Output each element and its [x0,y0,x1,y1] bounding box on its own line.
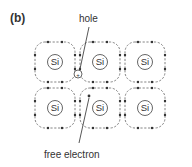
si-atom-label: Si [51,56,59,67]
si-atom-label: Si [96,56,104,67]
valence-electron [92,41,94,43]
valence-electron [137,127,139,129]
valence-electron [164,100,166,102]
si-atom-label: Si [141,102,149,113]
valence-electron [61,41,63,43]
valence-electron [151,41,153,43]
hole-symbol: + [76,72,80,78]
valence-electron [74,114,76,116]
valence-electron [151,127,153,129]
valence-electron [74,100,76,102]
valence-electron [164,54,166,56]
valence-electron [106,41,108,43]
valence-electron [47,87,49,89]
valence-electron [151,87,153,89]
silicon-lattice-diagram: (b) SiSiSiSiSiSi + hole free electron [0,0,192,167]
valence-electron [61,127,63,129]
valence-electron [34,54,36,56]
valence-electron [164,114,166,116]
valence-electron [47,81,49,83]
panel-label: (b) [10,11,25,25]
valence-electron [124,100,126,102]
valence-electron [79,54,81,56]
valence-electron [106,87,108,89]
valence-electron [79,114,81,116]
valence-electron [79,100,81,102]
hole-label: hole [79,13,98,24]
lattice: SiSiSiSiSiSi [34,41,166,129]
valence-electron [106,81,108,83]
valence-electron [119,54,121,56]
valence-electron [137,87,139,89]
valence-electron [151,81,153,83]
valence-electron [61,87,63,89]
valence-electron [34,68,36,70]
si-atom-label: Si [96,102,104,113]
valence-electron [119,100,121,102]
hole-leader-line [80,27,89,69]
free-electron-dot [88,95,91,98]
valence-electron [34,114,36,116]
valence-electron [34,100,36,102]
free-electron-label: free electron [44,149,100,160]
valence-electron [61,81,63,83]
valence-electron [74,68,76,70]
valence-electron [137,81,139,83]
valence-electron [137,41,139,43]
valence-electron [92,87,94,89]
valence-electron [119,68,121,70]
hole-marker: + [74,70,82,78]
valence-electron [119,114,121,116]
valence-electron [74,54,76,56]
valence-electron [124,114,126,116]
valence-electron [106,127,108,129]
valence-electron [47,127,49,129]
si-atom-label: Si [51,102,59,113]
valence-electron [124,54,126,56]
valence-electron [164,68,166,70]
valence-electron [92,81,94,83]
valence-electron [47,41,49,43]
valence-electron [92,127,94,129]
valence-electron [124,68,126,70]
si-atom-label: Si [141,56,149,67]
